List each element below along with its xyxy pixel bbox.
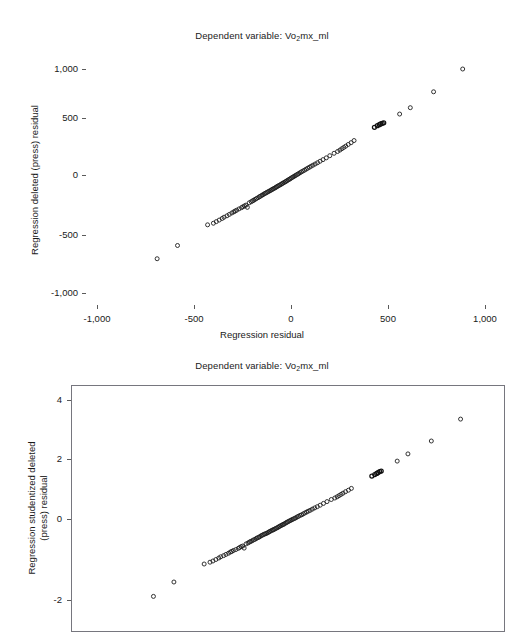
data-point <box>155 257 159 261</box>
data-point <box>176 243 180 247</box>
x-axis-title-top: Regression residual <box>0 329 524 340</box>
data-point <box>398 112 402 116</box>
chart-title-prefix: Dependent variable: Vo <box>195 360 296 371</box>
data-point <box>151 594 155 598</box>
chart-title-suffix: mx_ml <box>300 360 328 371</box>
x-tick-label: 500 <box>358 313 418 324</box>
y-tick-mark <box>67 600 71 601</box>
data-point <box>328 154 332 158</box>
data-point <box>202 562 206 566</box>
chart-title-subscript: 2 <box>296 365 300 372</box>
y-axis-title-bottom: Regression studentized deleted (press) r… <box>26 408 50 608</box>
scatter-svg-bottom <box>72 386 504 632</box>
data-point <box>325 500 329 504</box>
data-point <box>352 139 356 143</box>
data-point <box>429 439 433 443</box>
x-tick-mark <box>194 305 195 309</box>
residual-scatter-figure-top: Dependent variable: Vo2mx_ml Regression … <box>0 0 524 348</box>
scatter-plot-area-top <box>0 0 524 310</box>
data-point <box>406 452 410 456</box>
x-tick-label: -1,000 <box>67 313 127 324</box>
x-tick-label: 0 <box>261 313 321 324</box>
x-tick-mark <box>485 305 486 309</box>
data-point <box>172 580 176 584</box>
y-axis-title-line-2: (press) residual <box>38 408 50 608</box>
y-tick-label: -2 <box>34 594 62 605</box>
data-point <box>408 106 412 110</box>
data-point <box>461 67 465 71</box>
residual-scatter-figure-bottom: Dependent variable: Vo2mx_ml Regression … <box>0 348 524 632</box>
scatter-plot-area-bottom <box>72 386 504 632</box>
data-point <box>395 459 399 463</box>
y-tick-label: 0 <box>38 513 62 524</box>
chart-title-bottom: Dependent variable: Vo2mx_ml <box>0 360 524 371</box>
scatter-svg-top <box>0 0 524 310</box>
y-axis-title-line-1: Regression studentized deleted <box>26 408 38 608</box>
data-point <box>206 223 210 227</box>
y-tick-mark <box>67 400 71 401</box>
y-tick-mark <box>67 459 71 460</box>
x-tick-mark <box>97 305 98 309</box>
y-tick-label: 2 <box>38 453 62 464</box>
y-tick-label: 4 <box>38 394 62 405</box>
x-tick-mark <box>291 305 292 309</box>
x-tick-label: -500 <box>164 313 224 324</box>
y-tick-mark <box>67 519 71 520</box>
data-point <box>459 417 463 421</box>
x-tick-mark <box>388 305 389 309</box>
data-point <box>432 90 436 94</box>
x-tick-label: 1,000 <box>455 313 515 324</box>
